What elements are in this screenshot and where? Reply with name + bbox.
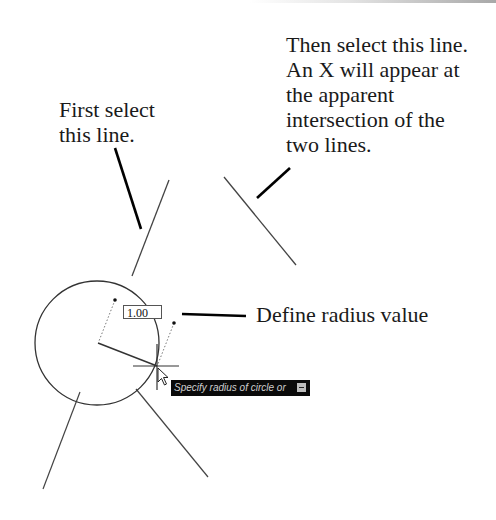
dimension-extension-right	[158, 323, 174, 364]
command-tooltip: Specify radius of circle or	[171, 380, 310, 396]
callout-radius: Define radius value	[256, 302, 428, 327]
callout-first-line: First select this line.	[59, 97, 155, 147]
circle[interactable]	[35, 281, 159, 405]
down-arrow-icon[interactable]	[297, 383, 306, 392]
radius-line	[98, 343, 157, 366]
dimension-point-right	[172, 321, 176, 325]
leader-second-line	[257, 168, 290, 198]
lower-right-line[interactable]	[136, 389, 208, 477]
leader-first-line	[115, 148, 141, 229]
second-line[interactable]	[224, 177, 296, 265]
first-line[interactable]	[132, 180, 169, 276]
dimension-extension-left	[99, 300, 115, 341]
dimension-point-left	[113, 298, 117, 302]
cursor-arrow-icon	[158, 368, 168, 385]
lower-left-line[interactable]	[43, 392, 80, 489]
radius-dynamic-input[interactable]: 1.00	[123, 305, 162, 319]
tooltip-text: Specify radius of circle or	[174, 382, 286, 393]
leader-radius	[182, 314, 246, 316]
callout-second-line: Then select this line. An X will appear …	[286, 32, 468, 157]
